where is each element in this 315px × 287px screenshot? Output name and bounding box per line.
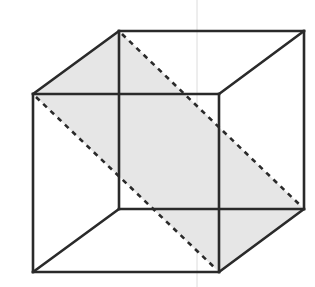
cube-diagram (0, 0, 315, 287)
edge-top-right-depth (219, 31, 304, 94)
edge-bottom-left-depth (33, 209, 119, 272)
diagram-canvas: Cube with diagonal cross-section plane (0, 0, 315, 287)
shaded-cross-section-plane (33, 31, 304, 272)
